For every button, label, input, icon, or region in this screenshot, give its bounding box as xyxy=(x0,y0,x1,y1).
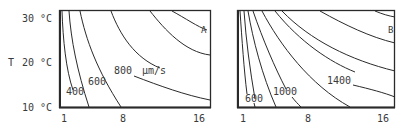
y-tick-30: 30 °C xyxy=(22,13,52,24)
contour-line-1600 xyxy=(282,11,395,71)
contour-line-1800 xyxy=(320,11,395,43)
contour-line xyxy=(62,11,73,90)
contour-line-1000 xyxy=(253,11,286,89)
contour-line-1000b xyxy=(292,97,301,107)
contour-line-400 xyxy=(240,11,247,94)
panel-a-x-tick-8: 8 xyxy=(120,113,126,124)
y-tick-10: 10 °C xyxy=(22,102,52,113)
panel-a-x-tick-1: 1 xyxy=(61,113,67,124)
panel-a-tag: A xyxy=(201,25,207,35)
panel-a: 400 600 800 µm/s A 1 8 16 xyxy=(59,10,211,124)
y-tick-20: 20 °C xyxy=(22,57,52,68)
contour-label-1000: 1000 xyxy=(273,86,297,97)
contour-label-600: 600 xyxy=(245,93,263,104)
panel-b-tag: B xyxy=(388,25,393,35)
contour-line-1400b xyxy=(353,85,395,97)
contour-line-1400 xyxy=(275,11,355,72)
contour-label-1400: 1400 xyxy=(327,75,351,86)
contour-label-800: 800 xyxy=(114,65,132,76)
panel-a-x-tick-16: 16 xyxy=(193,113,205,124)
contour-line-800 xyxy=(111,11,160,68)
contour-line-800b xyxy=(134,76,210,100)
contour-label-400: 400 xyxy=(66,86,84,97)
contour-figure: T 30 °C 20 °C 10 °C 400 600 800 µm/s A 1… xyxy=(0,0,399,137)
panel-b: 600 1000 1400 B 1 8 16 xyxy=(237,10,395,124)
contour-line-600 xyxy=(80,11,121,107)
panel-b-x-tick-16: 16 xyxy=(377,113,389,124)
contour-label-600: 600 xyxy=(88,76,106,87)
contour-line-2000 xyxy=(375,11,395,17)
y-axis-title: T xyxy=(8,57,14,68)
panel-b-x-tick-1: 1 xyxy=(240,113,246,124)
units-label: µm/s xyxy=(142,65,166,76)
panel-b-x-tick-8: 8 xyxy=(305,113,311,124)
